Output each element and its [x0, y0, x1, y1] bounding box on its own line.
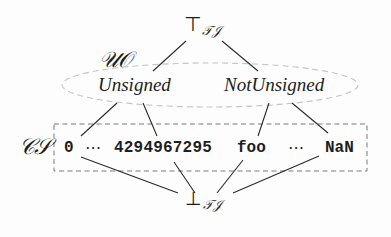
edge-top-notunsigned: [222, 41, 258, 71]
bottom-node: ⊥𝒯𝒥: [185, 189, 222, 208]
edge-nan-bottom: [233, 156, 319, 193]
edge-notunsigned-foo: [258, 103, 269, 136]
value-max-uint: 4294967295: [114, 140, 212, 156]
top-symbol: ⊤: [184, 12, 201, 36]
top-subscript: 𝒯𝒥: [202, 23, 221, 38]
cs-group-label: 𝒞𝒮: [19, 136, 50, 158]
bottom-symbol: ⊥: [185, 187, 202, 209]
edge-top-unsigned: [153, 41, 186, 71]
value-zero: 0: [64, 140, 74, 156]
edge-unsigned-zero: [81, 103, 117, 136]
uo-group-label: 𝒰𝒪: [99, 49, 131, 71]
value-nan: NaN: [325, 140, 354, 156]
bottom-subscript: 𝒯𝒥: [203, 197, 222, 212]
node-not-unsigned: NotUnsigned: [224, 75, 324, 94]
node-unsigned: Unsigned: [98, 75, 171, 94]
top-node: ⊤𝒯𝒥: [184, 14, 221, 34]
value-ellipsis-1: ⋯: [85, 140, 101, 156]
edge-zero-bottom: [81, 157, 178, 193]
edge-unsigned-maxuint: [143, 103, 157, 136]
edge-notunsigned-nan: [292, 103, 328, 133]
value-ellipsis-2: ⋯: [288, 140, 304, 156]
lattice-diagram: ⊤𝒯𝒥 𝒰𝒪 Unsigned NotUnsigned 𝒞𝒮 0 ⋯ 42949…: [0, 0, 391, 237]
value-foo: foo: [237, 140, 266, 156]
